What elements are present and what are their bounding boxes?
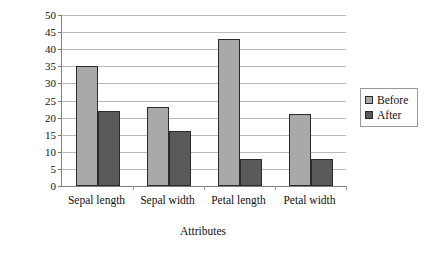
x-tick-mark — [133, 186, 134, 190]
x-tick-label: Petal width — [274, 194, 345, 206]
bar-after — [311, 159, 333, 186]
legend-swatch-icon — [365, 111, 373, 119]
y-tick-label: 20 — [26, 113, 56, 123]
y-tick-label: 0 — [26, 181, 56, 191]
bar-before — [76, 66, 98, 186]
y-tick-label: 5 — [26, 164, 56, 174]
y-tick-label: 40 — [26, 44, 56, 54]
x-axis-title: Attributes — [61, 225, 345, 237]
plot-area — [61, 15, 346, 187]
x-axis-tick-labels: Sepal lengthSepal widthPetal lengthPetal… — [61, 194, 345, 210]
bar-group — [275, 15, 346, 186]
y-tick-label: 10 — [26, 147, 56, 157]
bar-group — [62, 15, 133, 186]
bar-after — [169, 131, 191, 186]
bar-group — [204, 15, 275, 186]
x-tick-label: Sepal length — [61, 194, 132, 206]
y-tick-label: 30 — [26, 78, 56, 88]
y-tick-label: 15 — [26, 130, 56, 140]
bar-after — [98, 111, 120, 186]
x-tick-label: Sepal width — [132, 194, 203, 206]
bar-group — [133, 15, 204, 186]
bar-before — [218, 39, 240, 186]
bar-groups — [62, 15, 346, 186]
bar-chart-figure: Number of class 05101520253035404550 Sep… — [0, 0, 435, 258]
x-tick-mark — [275, 186, 276, 190]
chart-legend: BeforeAfter — [360, 88, 418, 127]
legend-item-after: After — [365, 107, 413, 122]
y-tick-label: 45 — [26, 27, 56, 37]
bar-after — [240, 159, 262, 186]
y-tick-label: 35 — [26, 61, 56, 71]
x-tick-mark — [346, 186, 347, 190]
x-tick-mark — [204, 186, 205, 190]
legend-label: After — [377, 109, 401, 121]
y-tick-mark — [58, 186, 62, 187]
x-tick-label: Petal length — [203, 194, 274, 206]
bar-before — [147, 107, 169, 186]
legend-label: Before — [377, 94, 408, 106]
bar-before — [289, 114, 311, 186]
y-tick-label: 25 — [26, 96, 56, 106]
y-tick-label: 50 — [26, 10, 56, 20]
legend-swatch-icon — [365, 96, 373, 104]
y-axis-tick-labels: 05101520253035404550 — [26, 10, 56, 186]
legend-item-before: Before — [365, 92, 413, 107]
